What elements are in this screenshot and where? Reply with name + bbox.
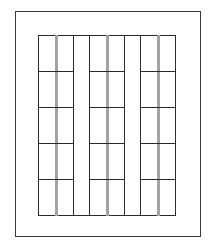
- row-divider: [90, 107, 124, 108]
- row-divider: [141, 179, 175, 180]
- column-group-2: [89, 35, 125, 216]
- row-divider: [39, 179, 73, 180]
- row-divider: [90, 71, 124, 72]
- row-divider: [141, 143, 175, 144]
- mullion-bar: [106, 35, 109, 216]
- mullion-bar: [157, 35, 160, 216]
- row-divider: [90, 179, 124, 180]
- row-divider: [141, 71, 175, 72]
- row-divider: [39, 71, 73, 72]
- row-divider: [39, 143, 73, 144]
- mullion-bar: [55, 35, 58, 216]
- row-divider: [141, 107, 175, 108]
- row-divider: [90, 143, 124, 144]
- row-divider: [39, 107, 73, 108]
- column-group-1: [38, 35, 74, 216]
- column-group-3: [140, 35, 176, 216]
